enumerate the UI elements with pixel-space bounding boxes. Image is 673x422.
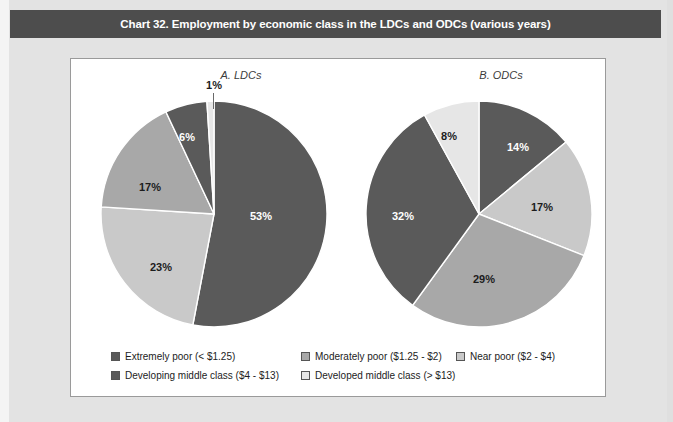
page-right-margin	[667, 0, 673, 422]
page-left-margin	[0, 0, 9, 422]
chart-panel: A. LDCs B. ODCs 53%23%17%6%1% 14%17%29%3…	[70, 58, 606, 397]
legend-item-developed-middle-class[interactable]: Developed middle class (> $13)	[301, 370, 455, 381]
legend-label-developed-middle-class: Developed middle class (> $13)	[315, 370, 455, 381]
chart-title-bar: Chart 32. Employment by economic class i…	[10, 10, 661, 38]
pie-chart-odcs: 14%17%29%32%8%	[354, 89, 604, 339]
legend-label-extremely-poor: Extremely poor (< $1.25)	[125, 351, 235, 362]
pie-b-svg	[354, 89, 604, 339]
legend-item-extremely-poor[interactable]: Extremely poor (< $1.25)	[111, 351, 235, 362]
legend-label-developing-middle-class: Developing middle class ($4 - $13)	[125, 370, 279, 381]
legend-item-moderately-poor[interactable]: Moderately poor ($1.25 - $2)	[301, 351, 442, 362]
legend-row-2: Developing middle class ($4 - $13) Devel…	[111, 370, 581, 389]
legend-item-near-poor[interactable]: Near poor ($2 - $4)	[456, 351, 555, 362]
legend-label-moderately-poor: Moderately poor ($1.25 - $2)	[315, 351, 442, 362]
page-title: Chart 32. Employment by economic class i…	[120, 18, 550, 30]
label-leader-line	[213, 93, 214, 109]
legend-swatch-developed-middle-class	[301, 371, 310, 380]
pie-chart-ldcs: 53%23%17%6%1%	[89, 89, 339, 339]
legend-item-developing-middle-class[interactable]: Developing middle class ($4 - $13)	[111, 370, 279, 381]
pie-a-title: A. LDCs	[171, 69, 311, 81]
page-root: Chart 32. Employment by economic class i…	[0, 0, 673, 422]
legend-swatch-moderately-poor	[301, 352, 310, 361]
legend-row-1: Extremely poor (< $1.25) Moderately poor…	[111, 351, 581, 370]
pie-a-svg	[89, 89, 339, 339]
legend-swatch-developing-middle-class	[111, 371, 120, 380]
legend-label-near-poor: Near poor ($2 - $4)	[470, 351, 555, 362]
legend-swatch-extremely-poor	[111, 352, 120, 361]
legend-swatch-near-poor	[456, 352, 465, 361]
chart-legend: Extremely poor (< $1.25) Moderately poor…	[111, 351, 581, 389]
pie-b-title: B. ODCs	[431, 69, 571, 81]
